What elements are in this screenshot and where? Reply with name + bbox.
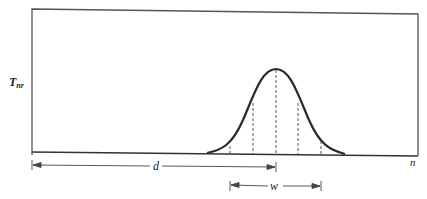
y-axis-label: Tnr (9, 75, 25, 90)
baseline-axis (32, 152, 418, 156)
bell-curve-diagram: d w Tnr n (0, 0, 427, 199)
plot-frame (32, 9, 418, 156)
dashed-guides (230, 70, 321, 154)
x-axis-label: n (410, 156, 416, 168)
width-label: w (270, 179, 278, 193)
distance-label: d (153, 159, 160, 173)
